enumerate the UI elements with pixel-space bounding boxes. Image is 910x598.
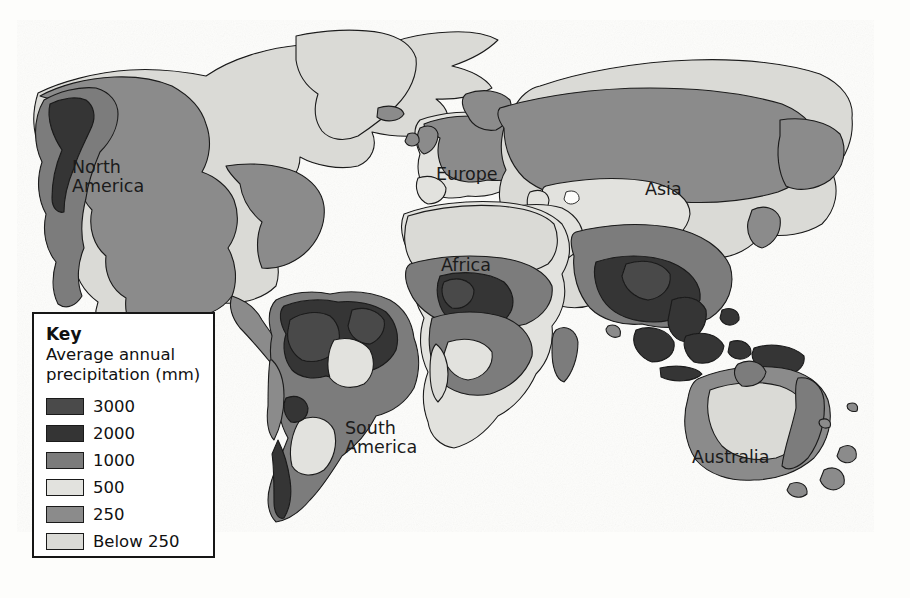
legend-item-list: 300020001000500250Below 250 [46, 393, 213, 555]
legend-row: 500 [46, 474, 213, 501]
legend-row: 1000 [46, 447, 213, 474]
map-legend: Key Average annual precipitation (mm) 30… [32, 312, 215, 558]
eu-ireland [405, 133, 419, 146]
legend-row: 250 [46, 501, 213, 528]
as-philippines [720, 309, 739, 325]
au-new-zealand-north [837, 446, 856, 463]
legend-swatch [46, 425, 84, 442]
map-label-asia: Asia [645, 180, 682, 199]
map-label-australia: Australia [692, 448, 769, 467]
legend-row: 2000 [46, 420, 213, 447]
legend-value: 500 [93, 479, 125, 496]
au-pacific-islet-1 [819, 419, 830, 428]
sa-band-500 [328, 338, 373, 387]
precipitation-map-figure: the distribution of precipitation across… [0, 0, 910, 598]
legend-value: Below 250 [93, 533, 179, 550]
as-aral-lake [564, 191, 579, 204]
legend-value: 2000 [93, 425, 135, 442]
legend-value: 250 [93, 506, 125, 523]
legend-swatch [46, 452, 84, 469]
legend-title: Key [46, 324, 213, 344]
map-label-north-america: North America [72, 158, 144, 196]
eu-iceland [377, 106, 404, 121]
legend-subtitle: Average annual precipitation (mm) [46, 345, 213, 384]
legend-value: 3000 [93, 398, 135, 415]
legend-row: Below 250 [46, 528, 213, 555]
legend-swatch [46, 479, 84, 496]
legend-swatch [46, 398, 84, 415]
au-new-zealand-south [820, 468, 844, 490]
legend-swatch [46, 506, 84, 523]
map-label-europe: Europe [436, 165, 498, 184]
map-label-south-america: South America [345, 419, 417, 457]
sa-band-2000-chile [284, 396, 308, 422]
map-label-africa: Africa [441, 256, 491, 275]
legend-row: 3000 [46, 393, 213, 420]
legend-value: 1000 [93, 452, 135, 469]
legend-swatch [46, 533, 84, 550]
